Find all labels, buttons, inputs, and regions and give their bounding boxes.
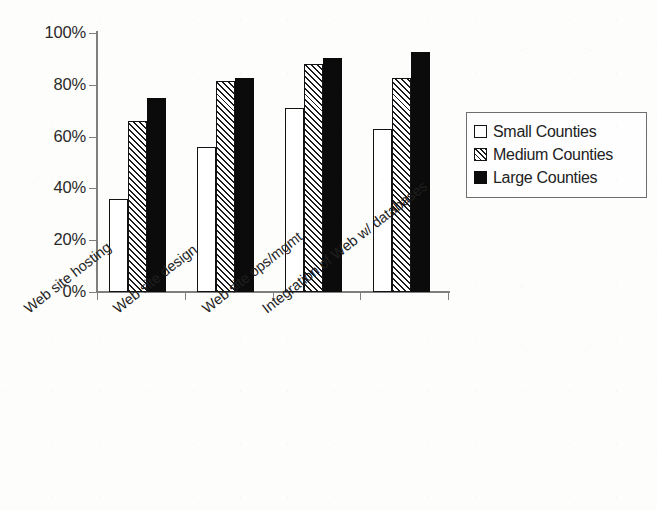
y-tick-label: 100% <box>34 23 86 42</box>
x-tick-mark <box>360 292 361 300</box>
x-tick-mark <box>97 292 98 300</box>
legend-item: Small Counties <box>474 120 640 143</box>
bar <box>197 147 216 292</box>
y-tick-mark <box>89 292 97 293</box>
legend-label: Small Counties <box>493 123 596 141</box>
legend-swatch-icon <box>474 125 487 138</box>
bar <box>285 108 304 292</box>
legend-item: Large Counties <box>474 166 640 189</box>
legend: Small CountiesMedium CountiesLarge Count… <box>466 112 647 198</box>
y-tick-label: 80% <box>34 75 86 94</box>
legend-item: Medium Counties <box>474 143 640 166</box>
y-tick-label: 20% <box>34 230 86 249</box>
bar-group <box>360 33 448 292</box>
y-tick-mark <box>89 188 97 189</box>
legend-swatch-icon <box>474 171 487 184</box>
y-tick-label: 40% <box>34 178 86 197</box>
legend-swatch-icon <box>474 148 487 161</box>
y-tick-label: 60% <box>34 127 86 146</box>
x-tick-mark <box>448 292 449 300</box>
legend-label: Medium Counties <box>493 146 613 164</box>
bar <box>392 78 411 292</box>
bar-chart: 0%20%40%60%80%100% Web site hostingWeb s… <box>0 0 657 510</box>
bar <box>109 199 128 292</box>
y-tick-mark <box>89 33 97 34</box>
bar <box>216 81 235 292</box>
y-tick-mark <box>89 85 97 86</box>
y-tick-mark <box>89 240 97 241</box>
legend-label: Large Counties <box>493 169 597 187</box>
bar <box>411 52 430 292</box>
bar <box>235 78 254 292</box>
y-tick-mark <box>89 137 97 138</box>
bar <box>128 121 147 292</box>
x-tick-mark <box>185 292 186 300</box>
